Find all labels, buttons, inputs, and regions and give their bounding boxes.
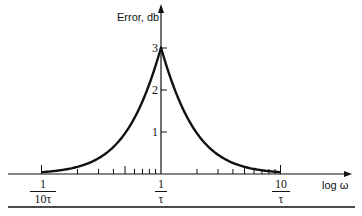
x-axis-label: log ω bbox=[322, 180, 348, 191]
y-axis-label: Error, db bbox=[117, 12, 159, 23]
x-tick-num: 10 bbox=[272, 178, 290, 190]
x-tick-den: τ bbox=[272, 193, 290, 205]
x-tick-label-one: 1 τ bbox=[155, 178, 167, 205]
x-tick-label-ten: 10 τ bbox=[272, 178, 290, 205]
y-tick-label-3: 3 bbox=[146, 42, 158, 54]
x-axis-arrow-icon bbox=[344, 171, 352, 177]
x-tick-num: 1 bbox=[30, 178, 56, 190]
x-tick-den: 10τ bbox=[30, 193, 56, 205]
x-tick-den: τ bbox=[155, 193, 167, 205]
y-tick-label-2: 2 bbox=[146, 84, 158, 96]
x-tick-num: 1 bbox=[155, 178, 167, 190]
y-tick-label-1: 1 bbox=[146, 126, 158, 138]
x-tick-label-tenth: 1 10τ bbox=[30, 178, 56, 205]
